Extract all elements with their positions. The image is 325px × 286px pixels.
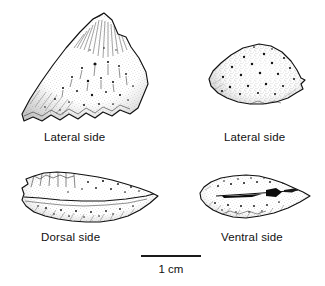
- specimen-top-right: [205, 38, 310, 110]
- scale-bar: [141, 255, 201, 257]
- caption-top-left: Lateral side: [44, 131, 105, 143]
- caption-bottom-left: Dorsal side: [41, 231, 100, 243]
- figure-plate: Lateral side Lateral side Dorsal side Ve…: [0, 0, 325, 286]
- scale-bar-label: 1 cm: [141, 263, 201, 275]
- caption-bottom-right: Ventral side: [221, 231, 283, 243]
- caption-top-right: Lateral side: [224, 131, 285, 143]
- specimen-bottom-left: [18, 168, 163, 226]
- specimen-bottom-right: [196, 172, 314, 222]
- specimen-top-left: [15, 5, 160, 130]
- specimen-drawings: [0, 0, 325, 286]
